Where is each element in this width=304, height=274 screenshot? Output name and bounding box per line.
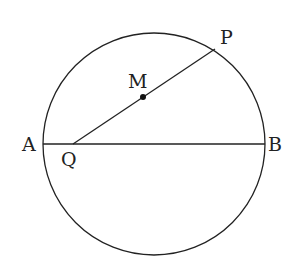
geometry-figure: A B P Q M: [0, 0, 304, 274]
point-M-dot: [140, 94, 146, 100]
label-A: A: [21, 133, 36, 155]
label-M: M: [128, 70, 147, 92]
label-B: B: [268, 133, 282, 155]
label-P: P: [220, 26, 233, 48]
diagram: A B P Q M: [0, 0, 304, 274]
label-Q: Q: [61, 148, 77, 170]
